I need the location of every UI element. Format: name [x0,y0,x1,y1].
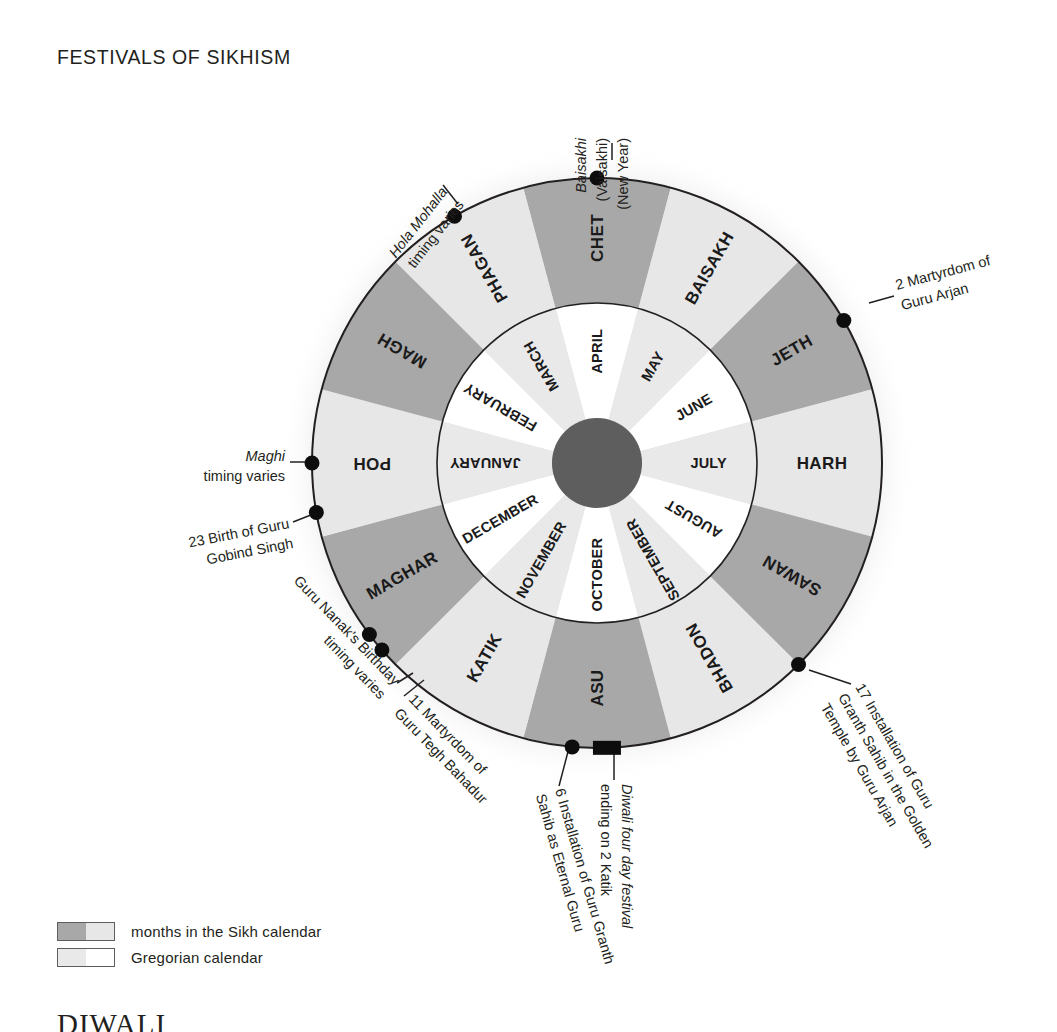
callout-text-group: Maghitiming varies [204,448,286,484]
legend-label: months in the Sikh calendar [131,923,322,940]
gregorian-month-label: APRIL [589,329,605,374]
legend-label: Gregorian calendar [131,949,263,966]
callout-text-group: 23 Birth of GuruGobind Singh [187,515,294,570]
callout-text-group: Diwali four day festivalending on 2 Kati… [598,784,635,929]
sikh-month-label: ASU [588,669,607,706]
callout-text-group: 2 Martyrdom ofGuru Arjan [894,252,999,313]
callout-line: ending on 2 Katik [598,784,614,897]
gregorian-month-label: JANUARY [450,455,521,471]
callout-marker-dot[interactable] [791,657,806,672]
calendar-wheel-svg: CHETBAISAKHJETHHARHSAWANBHADONASUKATIKMA… [0,0,1057,1032]
legend: months in the Sikh calendarGregorian cal… [57,920,477,972]
callout-line: Maghi [246,448,286,464]
callout-line: timing varies [204,468,285,484]
diwali-range-marker[interactable] [593,741,621,755]
callout-line: (New Year) [615,138,631,210]
legend-swatch-right [86,949,114,966]
legend-swatch-left [58,923,86,940]
legend-swatch-right [86,923,114,940]
sikh-month-label: POH [353,454,391,473]
callout-marker-dot[interactable] [565,739,580,754]
callout-marker-dot[interactable] [305,456,320,471]
legend-swatch [57,948,115,967]
callout-marker-dot[interactable] [836,313,851,328]
sikh-month-label: CHET [588,214,607,262]
gregorian-month-label: JULY [690,455,727,471]
callout-leader-line [869,296,894,303]
sikh-month-label: HARH [797,454,848,473]
legend-item: Gregorian calendar [57,946,477,969]
gregorian-month-label: OCTOBER [589,538,605,612]
legend-swatch-left [58,949,86,966]
wheel-hub [552,418,642,508]
callout-line: Baisakhi [573,137,589,193]
legend-swatch [57,922,115,941]
sikh-calendar-wheel: CHETBAISAKHJETHHARHSAWANBHADONASUKATIKMA… [0,0,1057,1032]
legend-item: months in the Sikh calendar [57,920,477,943]
footer-heading: DIWALI [57,1008,166,1032]
callout-line: (Vaisakhi) [594,138,610,201]
callout-text-group: 17 Installation of GuruGranth Sahib in t… [818,681,954,861]
callout-marker-dot[interactable] [309,505,324,520]
callout-line: Diwali four day festival [619,784,635,929]
